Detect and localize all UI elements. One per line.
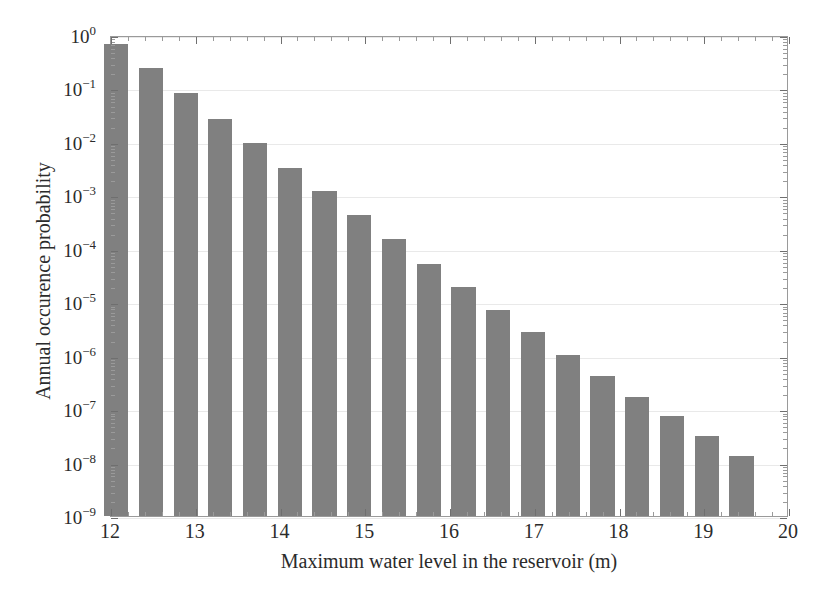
y-axis-minor-tick: [111, 416, 115, 417]
y-axis-minor-tick: [783, 259, 787, 260]
x-axis-minor-tick: [467, 37, 468, 41]
x-axis-minor-tick: [484, 37, 485, 41]
y-axis-tick: [111, 251, 118, 252]
y-axis-minor-tick: [783, 160, 787, 161]
y-axis-minor-tick: [111, 313, 115, 314]
x-axis-minor-tick: [653, 37, 654, 41]
x-axis-minor-tick: [467, 512, 468, 516]
x-axis-minor-tick: [247, 512, 248, 516]
x-axis-minor-tick: [128, 512, 129, 516]
y-axis-minor-tick: [783, 416, 787, 417]
x-axis-minor-tick: [416, 512, 417, 516]
x-axis-minor-tick: [603, 37, 604, 41]
y-axis-minor-tick: [111, 493, 115, 494]
y-axis-tick-label: 10−2: [63, 133, 96, 152]
y-axis-minor-tick: [783, 93, 787, 94]
y-axis-minor-tick: [783, 65, 787, 66]
x-axis-tick-label: 16: [439, 521, 459, 541]
y-axis-minor-tick: [111, 96, 115, 97]
y-axis-minor-tick: [783, 470, 787, 471]
y-axis-tick: [111, 465, 118, 466]
gridline: [111, 518, 787, 519]
y-axis-minor-tick: [111, 316, 115, 317]
x-axis-tick-label: 12: [100, 521, 120, 541]
y-axis-tick-labels: 10010−110−210−310−410−510−610−710−810−9: [0, 0, 110, 592]
y-axis-tick-label: 10−4: [63, 240, 96, 259]
bar: [382, 239, 406, 516]
y-axis-tick: [111, 304, 118, 305]
y-axis-tick: [111, 90, 118, 91]
x-axis-tick-label: 18: [609, 521, 629, 541]
y-axis-minor-tick: [111, 427, 115, 428]
x-axis-tick: [365, 509, 366, 516]
y-axis-minor-tick: [783, 156, 787, 157]
x-axis-minor-tick: [518, 512, 519, 516]
y-axis-minor-tick: [783, 112, 787, 113]
y-axis-minor-tick: [111, 332, 115, 333]
y-axis-minor-tick: [111, 476, 115, 477]
y-axis-minor-tick: [111, 235, 115, 236]
y-axis-minor-tick: [111, 253, 115, 254]
y-axis-minor-tick: [783, 209, 787, 210]
y-axis-minor-tick: [111, 342, 115, 343]
y-axis-minor-tick: [783, 253, 787, 254]
x-axis-minor-tick: [484, 512, 485, 516]
y-axis-minor-tick: [111, 58, 115, 59]
x-axis-minor-tick: [670, 512, 671, 516]
y-axis-minor-tick: [783, 320, 787, 321]
y-axis-minor-tick: [111, 209, 115, 210]
x-axis-tick: [281, 37, 282, 44]
y-axis-minor-tick: [111, 360, 115, 361]
x-axis-minor-tick: [687, 512, 688, 516]
y-axis-minor-tick: [111, 93, 115, 94]
y-axis-minor-tick: [783, 39, 787, 40]
y-axis-minor-tick: [111, 432, 115, 433]
x-axis-minor-tick: [416, 37, 417, 41]
y-axis-minor-tick: [783, 360, 787, 361]
y-axis-minor-tick: [783, 432, 787, 433]
y-axis-tick-label: 10−1: [63, 80, 96, 99]
y-axis-minor-tick: [111, 53, 115, 54]
y-axis-minor-tick: [111, 473, 115, 474]
y-axis-minor-tick: [111, 272, 115, 273]
y-axis-minor-tick: [783, 332, 787, 333]
y-axis-minor-tick: [111, 107, 115, 108]
y-axis-minor-tick: [111, 259, 115, 260]
y-axis-tick: [111, 144, 118, 145]
y-axis-minor-tick: [111, 288, 115, 289]
x-axis-minor-tick: [552, 37, 553, 41]
y-axis-minor-tick: [111, 256, 115, 257]
bar: [243, 143, 267, 516]
x-axis-minor-tick: [247, 37, 248, 41]
bar: [208, 119, 232, 516]
x-axis-minor-tick: [348, 512, 349, 516]
x-axis-tick-label: 20: [778, 521, 798, 541]
x-axis-tick: [450, 509, 451, 516]
y-axis-minor-tick: [111, 203, 115, 204]
x-axis-minor-tick: [314, 512, 315, 516]
y-axis-tick: [780, 197, 787, 198]
y-axis-minor-tick: [111, 309, 115, 310]
bar: [312, 191, 336, 516]
x-axis-minor-tick: [331, 37, 332, 41]
y-axis-tick-label: 10−6: [63, 347, 96, 366]
bar: [556, 355, 580, 516]
x-axis-minor-tick: [264, 512, 265, 516]
x-axis-tick-label: 17: [524, 521, 544, 541]
bar: [660, 416, 684, 516]
x-axis-minor-tick: [162, 37, 163, 41]
y-axis-minor-tick: [783, 118, 787, 119]
x-axis-minor-tick: [603, 512, 604, 516]
y-axis-minor-tick: [783, 235, 787, 236]
y-axis-title: Annual occurence probability: [33, 61, 53, 501]
x-axis-minor-tick: [297, 37, 298, 41]
y-axis-minor-tick: [783, 263, 787, 264]
x-axis-minor-tick: [772, 37, 773, 41]
y-axis-minor-tick: [111, 267, 115, 268]
y-axis-minor-tick: [111, 363, 115, 364]
x-axis-minor-tick: [755, 37, 756, 41]
y-axis-minor-tick: [783, 149, 787, 150]
y-axis-minor-tick: [783, 288, 787, 289]
y-axis-tick: [780, 144, 787, 145]
x-axis-tick: [704, 37, 705, 44]
